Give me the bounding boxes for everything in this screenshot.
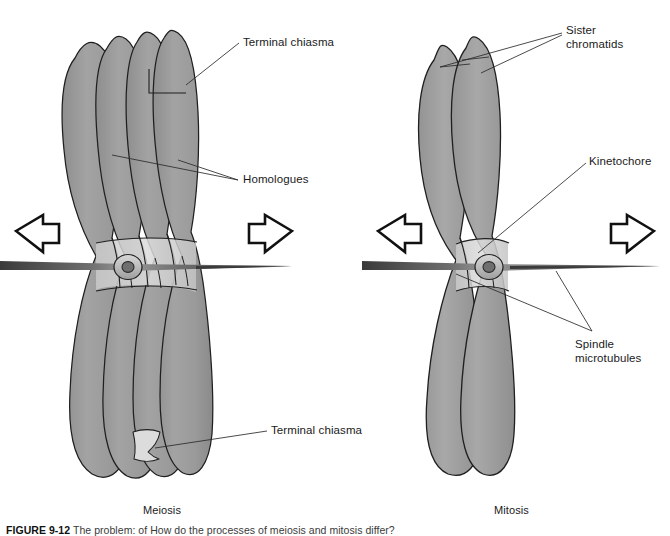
leader-terminal-chiasma-top <box>186 43 239 85</box>
leader-sister-chromatid-2 <box>481 35 562 73</box>
label-spindle-microtubules: Spindle microtubules <box>575 338 641 365</box>
label-sister-chromatids: Sister chromatids <box>566 24 623 51</box>
mitosis-right-pull-arrow <box>611 215 654 252</box>
label-terminal-chiasma-bottom: Terminal chiasma <box>271 424 362 438</box>
label-kinetochore: Kinetochore <box>589 155 651 169</box>
leader-spindle-2 <box>556 271 592 331</box>
meiosis-left-pull-arrow <box>16 215 59 252</box>
mitosis-chromosome-group <box>362 33 660 475</box>
panel-caption-mitosis: Mitosis <box>494 504 529 516</box>
label-terminal-chiasma-top: Terminal chiasma <box>243 36 334 50</box>
figure-caption: FIGURE 9-12 The problem: of How do the p… <box>6 524 395 536</box>
meiosis-chromosome-group <box>0 30 292 478</box>
meiosis-right-pull-arrow <box>249 215 292 252</box>
label-homologues: Homologues <box>243 173 309 187</box>
leader-sister-chromatid-1 <box>440 33 562 67</box>
mitosis-spindle-right-tip <box>510 266 660 269</box>
figure-caption-text: The problem: of How do the processes of … <box>73 524 395 536</box>
panel-caption-meiosis: Meiosis <box>143 504 181 516</box>
meiosis-spindle-right-tip <box>196 266 292 269</box>
meiosis-centromere-inner <box>122 262 134 273</box>
mitosis-kinetochore-inner <box>483 262 495 273</box>
figure-caption-number: FIGURE 9-12 <box>6 524 70 536</box>
mitosis-left-pull-arrow <box>378 215 421 252</box>
